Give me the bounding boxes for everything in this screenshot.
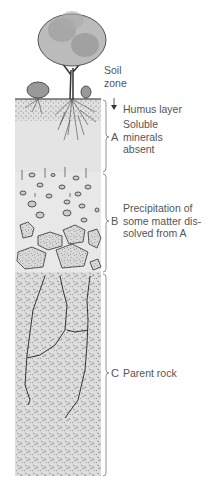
horizon-a-line: Soluble <box>123 118 163 131</box>
horizon-b-line: Precipitation of <box>123 202 201 215</box>
soil-zone-line1: Soil <box>104 64 127 77</box>
horizon-a-description: Soluble minerals absent <box>123 118 163 156</box>
horizon-c-letter: C <box>111 367 119 379</box>
horizon-b-letter: B <box>111 215 118 227</box>
soil-zone-line2: zone <box>104 77 127 90</box>
horizon-b-description: Precipitation of some matter dis- solved… <box>123 202 201 240</box>
horizon-a-line: minerals <box>123 131 163 144</box>
humus-layer <box>15 99 101 121</box>
horizon-c-description: Parent rock <box>123 367 177 380</box>
horizon-brackets <box>103 100 109 476</box>
tree-icon <box>38 11 106 99</box>
humus-layer-label: Humus layer <box>123 103 182 116</box>
soil-zone-label: Soil zone <box>104 64 127 89</box>
horizon-b-line: some matter dis- <box>123 215 201 228</box>
horizon-a-letter: A <box>111 131 118 143</box>
horizon-b-line: solved from A <box>123 227 201 240</box>
shrub-icon <box>27 82 91 98</box>
horizon-c <box>15 272 101 476</box>
horizon-a-line: absent <box>123 143 163 156</box>
